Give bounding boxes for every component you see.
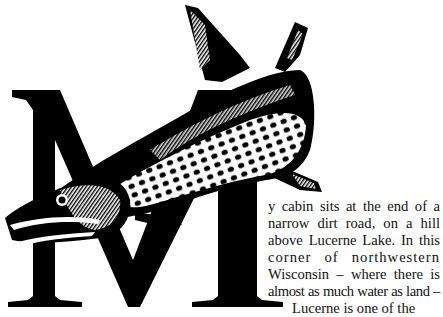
text-line-4: corner of northwestern [268, 249, 440, 266]
text-line-5: Wisconsin – where there is [268, 266, 440, 283]
text-line-6: almost as much water as land – [268, 283, 440, 300]
text-line-3: above Lucerne Lake. In this [268, 232, 440, 249]
text-line-2: narrow dirt road, on a hill [268, 215, 440, 232]
text-line-7: Lucerne is one of the [292, 300, 415, 317]
text-line-1: y cabin sits at the end of a [268, 198, 440, 215]
